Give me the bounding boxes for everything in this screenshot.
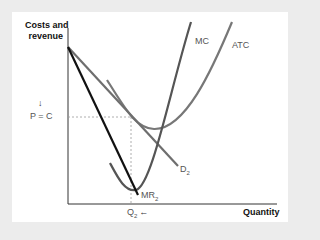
d2-label-sub: 2: [187, 170, 190, 176]
mr2-label: MR2: [141, 190, 158, 202]
mc-label: MC: [195, 36, 209, 46]
left-arrow-icon: ←: [139, 207, 148, 217]
demand-curve-d2: [68, 47, 178, 166]
atc-curve: [107, 22, 232, 129]
marginal-revenue-curve-mr2: [68, 47, 138, 195]
x-axis-label: Quantity: [243, 207, 280, 217]
q2-sub: 2: [134, 213, 137, 219]
y-axis-label: Costs and revenue: [25, 20, 63, 42]
atc-label: ATC: [232, 40, 249, 50]
q2-text: Q: [127, 207, 134, 217]
quantity-q2-label: Q2←: [127, 207, 148, 219]
price-cost-label: P = C: [30, 111, 53, 121]
mr2-label-text: MR: [141, 190, 155, 200]
price-arrow-icon: ↓: [38, 98, 43, 108]
d2-label: D2: [180, 164, 190, 176]
mr2-label-sub: 2: [155, 196, 158, 202]
y-axis-label-line2: revenue: [25, 31, 63, 42]
y-axis-label-line1: Costs and: [25, 20, 63, 31]
